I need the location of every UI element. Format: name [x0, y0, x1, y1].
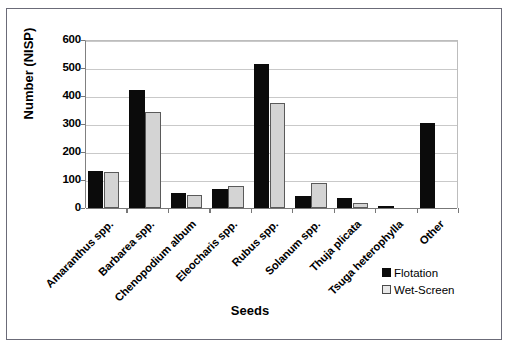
- y-axis-tick-label: 200: [49, 146, 81, 158]
- y-axis-tick-label: 300: [49, 118, 81, 130]
- chart-legend: FlotationWet-Screen: [382, 264, 492, 298]
- x-axis-tick-marks: [85, 208, 458, 213]
- bar-group: [375, 40, 416, 208]
- y-axis-tick-label: 0: [49, 202, 81, 214]
- bar-flotation[interactable]: [337, 198, 353, 208]
- bar-group: [85, 40, 126, 208]
- x-axis-tick-mark: [126, 208, 127, 213]
- bar-group: [168, 40, 209, 208]
- bar-wet-screen[interactable]: [187, 195, 203, 208]
- bar-flotation[interactable]: [171, 193, 187, 208]
- bar-group: [251, 40, 292, 208]
- x-axis-tick-mark: [168, 208, 169, 213]
- x-axis-tick-mark: [251, 208, 252, 213]
- bar-group: [417, 40, 458, 208]
- x-axis-tick-mark: [292, 208, 293, 213]
- bar-group: [334, 40, 375, 208]
- x-axis-tick-mark: [458, 208, 459, 213]
- bar-flotation[interactable]: [129, 90, 145, 208]
- y-axis-tick-labels: 6005004003002001000: [45, 40, 81, 208]
- x-axis-tick-mark: [417, 208, 418, 213]
- bar-chart: Number (NISP) 6005004003002001000 Amaran…: [0, 0, 510, 350]
- legend-item-label: Flotation: [394, 267, 438, 279]
- bars-layer: [85, 40, 458, 208]
- bar-group: [209, 40, 250, 208]
- y-axis-tick-label: 500: [49, 62, 81, 74]
- bar-flotation[interactable]: [420, 123, 436, 208]
- legend-item[interactable]: Flotation: [382, 264, 492, 281]
- white-square-icon: [382, 285, 391, 294]
- bar-flotation[interactable]: [295, 196, 311, 208]
- y-axis-tick-label: 100: [49, 174, 81, 186]
- bar-group: [126, 40, 167, 208]
- bar-flotation[interactable]: [254, 64, 270, 208]
- bar-wet-screen[interactable]: [104, 172, 120, 208]
- x-axis-tick-mark: [375, 208, 376, 213]
- legend-item-label: Wet-Screen: [394, 284, 455, 296]
- bar-group: [292, 40, 333, 208]
- x-axis-title: Seeds: [190, 303, 310, 318]
- black-square-icon: [382, 268, 391, 277]
- y-axis-tick-label: 400: [49, 90, 81, 102]
- y-axis-title: Number (NISP): [21, 0, 36, 164]
- bar-wet-screen[interactable]: [228, 186, 244, 208]
- bar-wet-screen[interactable]: [145, 112, 161, 208]
- legend-item[interactable]: Wet-Screen: [382, 281, 492, 298]
- bar-wet-screen[interactable]: [270, 103, 286, 208]
- bar-flotation[interactable]: [212, 189, 228, 208]
- x-axis-tick-mark: [209, 208, 210, 213]
- x-axis-tick-mark: [334, 208, 335, 213]
- y-axis-tick-label: 600: [49, 34, 81, 46]
- bar-wet-screen[interactable]: [311, 183, 327, 208]
- bar-flotation[interactable]: [88, 171, 104, 208]
